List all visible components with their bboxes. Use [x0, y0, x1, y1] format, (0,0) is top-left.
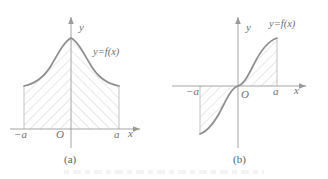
panel-a-y-axis-arrow [68, 17, 74, 24]
panel-b: y x O −a a y=f(x) (b) [172, 17, 306, 166]
math-figure-svg: y x O −a a y=f(x) (a) [0, 0, 328, 179]
cropped-caption-remnant [64, 170, 264, 174]
panel-b-x-axis-label: x [293, 84, 299, 96]
panel-a-x-axis-arrow [133, 126, 140, 132]
panel-b-y-axis-arrow [235, 17, 241, 24]
panel-b-tick-left-label: −a [186, 85, 199, 97]
panel-a-tick-right-label: a [114, 128, 120, 140]
panel-b-x-axis-arrow [299, 83, 306, 89]
panel-b-shaded-region-upper [234, 32, 284, 90]
panel-a-y-axis-label: y [78, 21, 84, 33]
panel-a-shaded-region-left [20, 30, 76, 135]
panel-b-caption: (b) [233, 153, 246, 166]
panel-a-x-axis-label: x [127, 127, 133, 139]
panel-b-tick-right-label: a [273, 85, 279, 97]
panel-a-tick-left-label: −a [14, 128, 27, 140]
panel-a-caption: (a) [64, 153, 77, 166]
panel-b-y-axis-label: y [245, 21, 251, 33]
panel-a-curve-label: y=f(x) [92, 46, 120, 58]
panel-a-origin-label: O [56, 128, 64, 140]
panel-b-shaded-region-lower [196, 82, 242, 140]
panel-a: y x O −a a y=f(x) (a) [10, 17, 140, 166]
panel-b-origin-label: O [241, 88, 249, 100]
panel-b-curve-label: y=f(x) [268, 18, 296, 30]
figure-container: y x O −a a y=f(x) (a) [0, 0, 328, 179]
